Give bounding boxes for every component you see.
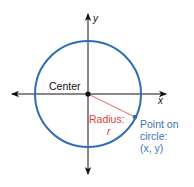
point-label-line3: (x, y) <box>140 142 163 154</box>
center-point <box>85 91 90 96</box>
y-axis-label: y <box>92 13 99 24</box>
point-on-circle <box>133 115 138 120</box>
point-label-line1: Point on <box>140 118 179 130</box>
point-label-line2: circle: <box>140 130 167 142</box>
radius-symbol: r <box>107 125 111 137</box>
x-axis-label: x <box>157 95 164 106</box>
circle-diagram: y x Center Radius: r Point on circle: (x… <box>0 0 194 187</box>
center-label: Center <box>49 80 81 92</box>
radius-label: Radius: <box>89 113 125 125</box>
